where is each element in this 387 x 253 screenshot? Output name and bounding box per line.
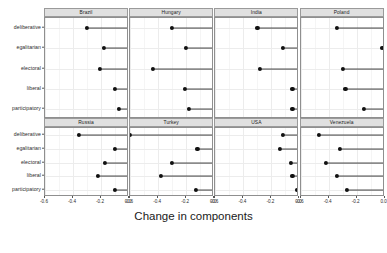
panel-brazil: Brazil <box>44 8 128 118</box>
panel-turkey: Turkey <box>129 118 213 196</box>
gridline-vertical-minor <box>315 128 316 195</box>
data-point-deliberative <box>129 133 132 137</box>
gridline-horizontal <box>215 190 297 191</box>
panel-header-poland: Poland <box>300 8 384 17</box>
plot-area-india <box>214 17 298 118</box>
panel-title: Poland <box>334 10 350 15</box>
data-point-participatory <box>187 107 191 111</box>
data-point-egalitarian <box>280 46 284 50</box>
panel-hungary: Hungary <box>129 8 213 118</box>
data-point-deliberative <box>335 26 339 30</box>
panel-title: Turkey <box>164 120 179 125</box>
segment-electoral <box>260 68 298 69</box>
gridline-horizontal <box>215 176 297 177</box>
gridline-vertical <box>215 128 216 195</box>
y-axis-tick-label-electoral: electoral <box>21 159 41 165</box>
panel-header-india: India <box>214 8 298 17</box>
y-axis-labels-row-0: deliberativeegalitarianelectoralliberalp… <box>0 17 44 118</box>
data-point-participatory <box>117 107 121 111</box>
data-point-participatory <box>345 188 349 192</box>
data-point-electoral <box>150 66 154 70</box>
panel-russia: Russia <box>44 118 128 196</box>
panel-venezuela: Venezuela <box>300 118 384 196</box>
gridline-vertical-minor <box>87 18 88 117</box>
segment-deliberative <box>79 134 128 135</box>
panel-header-usa: USA <box>214 118 298 127</box>
y-axis-tick-label-liberal: liberal <box>27 172 41 178</box>
segment-participatory <box>196 190 213 191</box>
data-point-deliberative <box>255 26 259 30</box>
data-point-egalitarian <box>380 46 384 50</box>
gridline-vertical <box>271 128 272 195</box>
segment-liberal <box>185 88 213 89</box>
x-axis-tick-label: -0.4 <box>153 199 161 204</box>
gridline-vertical <box>73 18 74 117</box>
y-axis-tick-label-egalitarian: egalitarian <box>17 44 42 50</box>
panel-india: India <box>214 8 298 118</box>
data-point-deliberative <box>280 133 284 137</box>
panel-title: Brazil <box>80 10 93 15</box>
data-point-egalitarian <box>338 147 342 151</box>
segment-deliberative <box>337 28 384 29</box>
x-axis-tick-label: -0.4 <box>68 199 76 204</box>
panel-header-russia: Russia <box>44 118 128 127</box>
gridline-vertical-minor <box>144 128 145 195</box>
y-axis-tick-label-deliberative: deliberative <box>14 24 41 30</box>
segment-electoral <box>100 68 128 69</box>
panel-title: Russia <box>78 120 94 125</box>
data-point-liberal <box>335 174 339 178</box>
segment-egalitarian <box>197 148 213 149</box>
segment-liberal <box>98 176 128 177</box>
segment-deliberative <box>172 28 213 29</box>
data-point-liberal <box>96 174 100 178</box>
data-point-participatory <box>362 107 366 111</box>
y-axis-tick-label-liberal: liberal <box>27 85 41 91</box>
data-point-deliberative <box>317 133 321 137</box>
data-point-liberal <box>290 174 294 178</box>
segment-participatory <box>115 190 128 191</box>
data-point-deliberative <box>77 133 81 137</box>
panel-title: Venezuela <box>330 120 354 125</box>
data-point-electoral <box>289 160 293 164</box>
x-axis-tick-label: -0.2 <box>352 199 360 204</box>
gridline-vertical-minor <box>59 18 60 117</box>
segment-deliberative <box>319 134 384 135</box>
gridline-vertical <box>45 128 46 195</box>
segment-egalitarian <box>104 48 128 49</box>
x-axis-col-0: -0.6-0.4-0.20.0 <box>44 196 128 208</box>
gridline-vertical-minor <box>315 18 316 117</box>
data-point-participatory <box>194 188 198 192</box>
data-point-electoral <box>258 66 262 70</box>
segment-liberal <box>337 176 384 177</box>
gridline-horizontal <box>45 109 127 110</box>
gridline-vertical <box>130 18 131 117</box>
panel-title: Hungary <box>162 10 181 15</box>
segment-egalitarian <box>340 148 384 149</box>
gridline-vertical-minor <box>144 18 145 117</box>
panel-header-hungary: Hungary <box>129 8 213 17</box>
plot-area-poland <box>300 17 384 118</box>
gridline-vertical <box>101 128 102 195</box>
plot-area-venezuela <box>300 127 384 196</box>
gridline-horizontal <box>301 48 383 49</box>
plot-area-brazil <box>44 17 128 118</box>
segment-deliberative <box>257 28 298 29</box>
plot-area-usa <box>214 127 298 196</box>
x-axis-tick-label: -0.6 <box>40 199 48 204</box>
gridline-vertical <box>45 18 46 117</box>
panel-title: USA <box>251 120 261 125</box>
data-point-liberal <box>290 87 294 91</box>
x-axis-tick-label: -0.2 <box>266 199 274 204</box>
data-point-liberal <box>113 87 117 91</box>
x-axis-tick-label: -0.4 <box>238 199 246 204</box>
gridline-horizontal <box>215 163 297 164</box>
y-axis-tick-label-participatory: participatory <box>12 105 41 111</box>
data-point-participatory <box>113 188 117 192</box>
segment-egalitarian <box>115 148 128 149</box>
segment-liberal <box>115 88 128 89</box>
data-point-egalitarian <box>195 147 199 151</box>
panel-usa: USA <box>214 118 298 196</box>
gridline-vertical-minor <box>87 128 88 195</box>
data-point-electoral <box>170 160 174 164</box>
y-axis-tick-label-egalitarian: egalitarian <box>17 145 42 151</box>
